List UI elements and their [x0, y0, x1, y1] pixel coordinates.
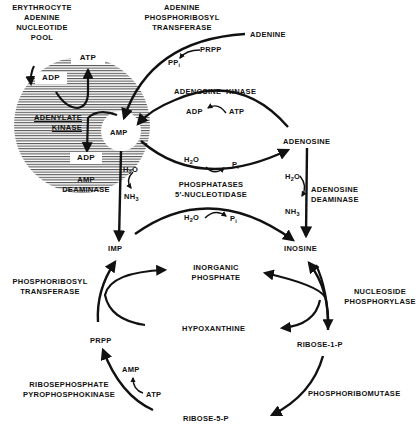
adenosine-deaminase-arrow — [306, 148, 307, 236]
inorganic-phosphate-label: INORGANIC PHOSPHATE — [186, 263, 246, 283]
adenylate-kinase-label: ADENYLATE KINASE — [24, 113, 82, 133]
inosine-label: INOSINE — [284, 244, 317, 254]
imp-label: IMP — [108, 244, 122, 254]
ppi-text: PP — [168, 58, 179, 67]
prpp-ppi-arrow — [180, 50, 200, 58]
phos-top-h2o: H2O — [184, 155, 199, 167]
adk-atp-adp-arrow — [208, 106, 226, 113]
pi-line: PHOSPHATE — [186, 273, 246, 283]
sub-i: i — [235, 218, 237, 224]
o-text: O — [294, 172, 300, 181]
sub-3: 3 — [296, 211, 299, 217]
aprt-label-line: ADENINE — [140, 3, 224, 13]
adk-atp-label: ATP — [229, 107, 244, 117]
prt-line: TRANSFERASE — [4, 287, 96, 297]
pool-label-line: POOL — [8, 33, 76, 43]
ppi-sub: i — [179, 62, 181, 68]
ppi-label: PPi — [168, 58, 180, 70]
pnp-line: PHOSPHORYLASE — [340, 297, 420, 307]
pnp-line: NUCLEOSIDE — [340, 287, 420, 297]
rpk-atp-label: ATP — [146, 390, 161, 400]
ribose-5-p-label: RIBOSE-5-P — [183, 414, 229, 424]
phos-bottom-h2o: H2O — [184, 213, 199, 225]
atp-box: ATP — [71, 52, 105, 64]
o-text: O — [193, 155, 199, 164]
adk-label-line: KINASE — [24, 123, 82, 133]
rpk-atp-amp-arrow — [133, 378, 143, 393]
ado-h2o: H2O — [285, 172, 300, 184]
phosphatases-label: PHOSPHATASES 5′-NUCLEOTIDASE — [168, 180, 254, 200]
rpk-line: PYROPHOSPHOKINASE — [14, 390, 124, 400]
ado-h2o-nh3-arrow — [300, 176, 305, 196]
pool-label-line: ERYTHROCYTE — [8, 3, 76, 13]
phosphatases-line: 5′-NUCLEOTIDASE — [168, 190, 254, 200]
pi-line: INORGANIC — [186, 263, 246, 273]
phosphatases-line: PHOSPHATASES — [168, 180, 254, 190]
nh-text: NH — [124, 192, 135, 201]
adenosine-kinase-label: ADENOSINE KINASE — [174, 87, 256, 97]
pnp-hypoxanthine-arrow — [282, 300, 320, 328]
adp-box-bottom: ADP — [70, 152, 102, 164]
ado-nh3: NH3 — [285, 207, 300, 219]
adp-box-top: ADP — [35, 72, 67, 84]
ada-line: DEAMINASE — [311, 195, 359, 205]
prpp-label: PRPP — [90, 336, 112, 346]
pool-label-line: NUCLEOTIDE — [8, 23, 76, 33]
prpp-top-label: PRPP — [200, 45, 222, 55]
nh-text: NH — [285, 207, 296, 216]
phosphatase-top-arrow — [141, 141, 288, 169]
amp-label: AMP — [110, 128, 128, 138]
nucleoside-phosphorylase-label: NUCLEOSIDE PHOSPHORYLASE — [340, 287, 420, 307]
hypoxanthine-label: HYPOXANTHINE — [182, 324, 245, 334]
amp-deaminase-label: AMP DEAMINASE — [58, 175, 114, 195]
o-text: O — [132, 165, 138, 174]
phosphoribomutase-arrow — [272, 356, 323, 415]
amp-deaminase-line: DEAMINASE — [58, 185, 114, 195]
o-text: O — [193, 213, 199, 222]
adk-label-line: ADENYLATE — [24, 113, 82, 123]
amp-deaminase-line: AMP — [58, 175, 114, 185]
amp-h2o: H2O — [123, 165, 138, 177]
amp-nh3: NH3 — [124, 192, 139, 204]
phosphoribosyl-transferase-label: PHOSPHORIBOSYL TRANSFERASE — [4, 277, 96, 297]
hprt-pi-arrow — [105, 270, 165, 325]
pool-label-line: ADENINE — [8, 13, 76, 23]
phos-bottom-pi: Pi — [230, 214, 237, 226]
rpk-amp-label: AMP — [122, 365, 140, 375]
pathway-diagram — [0, 0, 420, 433]
adenine-label: ADENINE — [250, 30, 286, 40]
prt-line: PHOSPHORIBOSYL — [4, 277, 96, 287]
sub-3: 3 — [135, 196, 138, 202]
phos-top-pi: Pi — [232, 160, 239, 172]
adenosine-label: ADENOSINE — [283, 137, 330, 147]
pnp-pi-arrow — [265, 273, 325, 297]
sub-i: i — [237, 164, 239, 170]
ada-line: ADENOSINE — [311, 185, 359, 195]
phosphoribomutase-label: PHOSPHORIBOMUTASE — [308, 389, 400, 399]
pool-label: ERYTHROCYTE ADENINE NUCLEOTIDE POOL — [8, 3, 76, 43]
aprt-label: ADENINE PHOSPHORIBOSYL TRANSFERASE — [140, 3, 224, 33]
ribose-1-p-label: RIBOSE-1-P — [297, 340, 343, 350]
aprt-label-line: TRANSFERASE — [140, 23, 224, 33]
rpk-line: RIBOSEPHOSPHATE — [14, 380, 124, 390]
phos-bottom-h2o-pi-arrow — [205, 212, 226, 218]
adenosine-deaminase-label: ADENOSINE DEAMINASE — [311, 185, 359, 205]
aprt-label-line: PHOSPHORIBOSYL — [140, 13, 224, 23]
adk-adp-label: ADP — [186, 107, 203, 117]
rpk-label: RIBOSEPHOSPHATE PYROPHOSPHOKINASE — [14, 380, 124, 400]
